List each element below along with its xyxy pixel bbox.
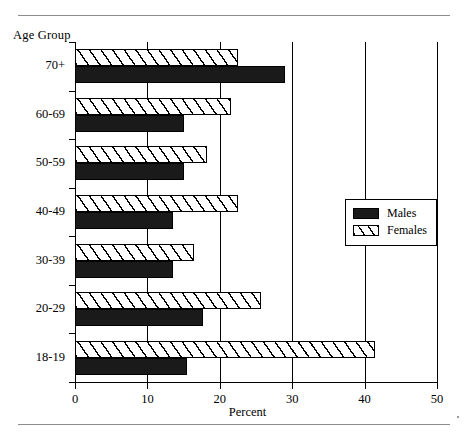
bar-males-30-39: [75, 261, 173, 278]
gridline-30: [292, 42, 293, 382]
y-tick-label-20-29: 20-29: [3, 301, 65, 316]
chart-figure: Age Group 01020304050 70+60-6950-5940-49…: [0, 0, 467, 438]
y-tick-40-49: [69, 188, 76, 189]
x-axis-title: Percent: [0, 405, 467, 420]
legend-item-males: Males: [353, 205, 430, 222]
legend-swatch-females: [353, 225, 379, 236]
y-tick-label-60-69: 60-69: [3, 107, 65, 122]
x-axis-line: [75, 382, 438, 383]
x-tick-50: [437, 383, 438, 389]
bar-males-40-49: [75, 212, 173, 229]
y-tick-60-69: [69, 91, 76, 92]
y-tick-label-18-19: 18-19: [3, 350, 65, 365]
bar-females-50-59: [75, 146, 207, 163]
page-rule-bottom: [18, 424, 450, 425]
page-rule-top: [18, 15, 450, 16]
y-axis-title: Age Group: [13, 28, 71, 43]
bar-males-20-29: [75, 309, 203, 326]
bar-females-20-29: [75, 292, 261, 309]
y-tick-70+: [69, 42, 76, 43]
bar-males-18-19: [75, 358, 187, 375]
bar-males-70+: [75, 66, 285, 83]
gridline-50: [437, 42, 438, 382]
x-tick-40: [365, 383, 366, 389]
bar-females-70+: [75, 49, 238, 66]
x-axis-title-text: Percent: [229, 405, 266, 419]
bar-females-18-19: [75, 341, 375, 358]
legend-label-males: Males: [387, 206, 416, 221]
legend-item-females: Females: [353, 222, 430, 239]
legend-swatch-males: [353, 208, 379, 219]
bar-females-40-49: [75, 195, 238, 212]
y-tick-label-50-59: 50-59: [3, 155, 65, 170]
chart-legend: Males Females: [345, 199, 437, 246]
y-tick-label-30-39: 30-39: [3, 253, 65, 268]
legend-label-females: Females: [387, 223, 427, 238]
x-tick-10: [147, 383, 148, 389]
bar-males-50-59: [75, 163, 184, 180]
y-tick-30-39: [69, 236, 76, 237]
bar-females-30-39: [75, 244, 194, 261]
y-tick-50-59: [69, 139, 76, 140]
y-tick-20-29: [69, 285, 76, 286]
y-tick-label-70+: 70+: [3, 58, 65, 73]
y-tick-label-40-49: 40-49: [3, 204, 65, 219]
bar-females-60-69: [75, 98, 231, 115]
bar-males-60-69: [75, 115, 184, 132]
y-tick-18-19: [69, 333, 76, 334]
x-tick-0: [75, 383, 76, 389]
y-tick-baseline: [69, 382, 76, 383]
x-tick-20: [220, 383, 221, 389]
x-tick-30: [292, 383, 293, 389]
gridline-20: [220, 42, 221, 382]
